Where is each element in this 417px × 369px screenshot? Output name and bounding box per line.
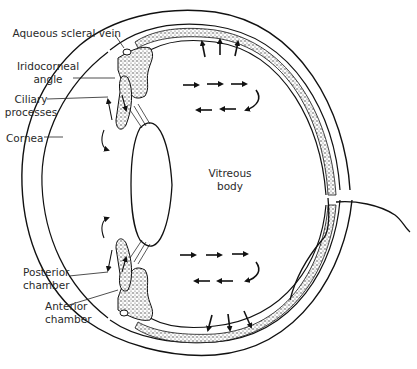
- label-vitreous-body-line2: body: [200, 180, 260, 192]
- label-posterior-chamber-line2: chamber: [23, 279, 70, 291]
- label-vitreous-body-line1: Vitreous: [200, 167, 260, 179]
- label-anterior-chamber-line1: Anterior: [45, 300, 87, 312]
- label-ciliary-processes-line1: Ciliary: [2, 93, 60, 105]
- label-aqueous-scleral-vein: Aqueous scleral vein: [4, 27, 121, 39]
- label-cornea: Cornea: [6, 132, 43, 144]
- label-posterior-chamber-line1: Posterior: [23, 266, 69, 278]
- label-ciliary-processes-line2: processes: [2, 106, 60, 118]
- lens: [130, 104, 172, 264]
- label-iridocorneal-angle-line2: angle: [14, 73, 82, 85]
- label-anterior-chamber-line2: chamber: [45, 313, 92, 325]
- label-iridocorneal-angle-line1: Iridocorneal: [14, 60, 82, 72]
